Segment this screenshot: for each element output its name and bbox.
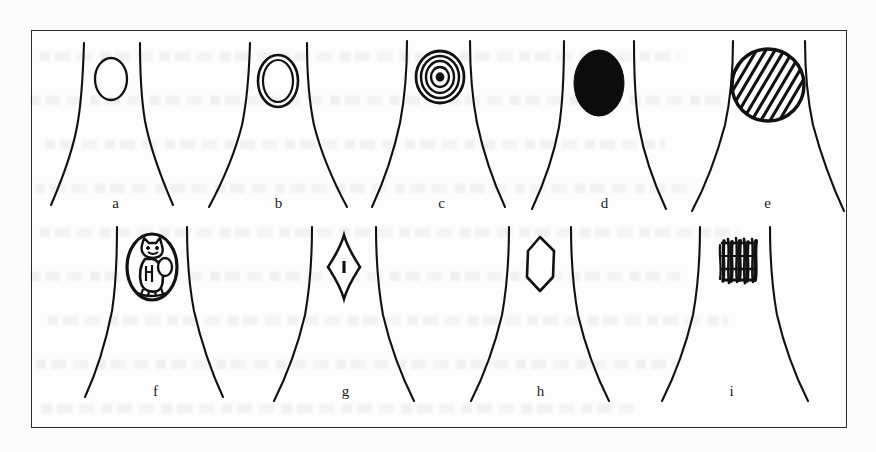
- figure-panel-i: i: [650, 223, 813, 408]
- inclusion-solid-black-ellipse: [574, 50, 624, 116]
- panel-label-d: d: [523, 195, 686, 212]
- figure-panel-e: e: [686, 35, 849, 220]
- figure-panel-b: b: [197, 35, 360, 220]
- figure-panel-d: d: [523, 35, 686, 220]
- figure-panel-a: a: [34, 35, 197, 220]
- figure-panel-f: f: [74, 223, 237, 408]
- figure-panel-c: c: [360, 35, 523, 220]
- panel-label-b: b: [197, 195, 360, 212]
- figure-panel-h: h: [459, 223, 622, 408]
- inclusion-concentric-rings: [416, 51, 464, 103]
- panel-label-i: i: [650, 383, 813, 400]
- panel-label-g: g: [264, 383, 427, 400]
- inclusion-double-ring-oval: [258, 55, 298, 107]
- inclusion-small-empty-oval: [95, 58, 127, 100]
- inclusion-empty-hexagon: [527, 237, 554, 291]
- panel-label-c: c: [360, 195, 523, 212]
- figure-frame: a b: [31, 30, 847, 428]
- inclusion-diamond-with-bar: [328, 235, 360, 299]
- inclusion-oval-with-figure: [127, 234, 177, 300]
- figure-panel-g: g: [264, 223, 427, 408]
- panel-label-h: h: [459, 383, 622, 400]
- panel-label-e: e: [686, 195, 849, 212]
- panel-label-a: a: [34, 195, 197, 212]
- inclusion-dense-vertical-scribble: [720, 238, 756, 283]
- panel-label-f: f: [74, 383, 237, 400]
